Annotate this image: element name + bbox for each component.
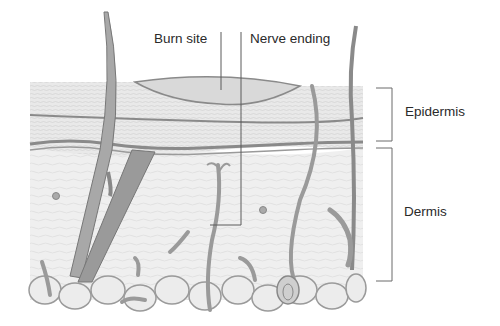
epidermis-label: Epidermis bbox=[405, 104, 465, 119]
dermis-bracket bbox=[376, 148, 392, 281]
pacinian-corpuscle bbox=[277, 276, 299, 304]
layer-brackets bbox=[376, 88, 392, 281]
burn-site-label: Burn site bbox=[154, 31, 207, 46]
dermis-label: Dermis bbox=[404, 204, 447, 219]
nerve-ending-label: Nerve ending bbox=[250, 31, 330, 46]
skin-diagram bbox=[0, 0, 500, 326]
epidermis-bracket bbox=[376, 88, 392, 141]
